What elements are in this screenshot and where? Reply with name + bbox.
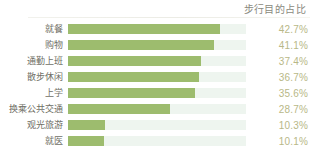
bar-value-label: 41.1% — [279, 37, 308, 53]
table-row: 观光旅游10.3% — [0, 117, 316, 133]
bar-track-wrapper: 37.4% — [68, 53, 316, 69]
bar-category-label: 上学 — [0, 89, 68, 98]
bar-track-wrapper: 35.6% — [68, 85, 316, 101]
table-row: 上学35.6% — [0, 85, 316, 101]
chart-header: 步行目的占比 — [0, 0, 316, 17]
bar-fill — [68, 40, 214, 50]
table-row: 通勤上班37.4% — [0, 53, 316, 69]
bar-category-label: 散步休闲 — [0, 73, 68, 82]
bar-track-wrapper: 41.1% — [68, 37, 316, 53]
walking-purpose-chart-panel: 步行目的占比 就餐42.7%购物41.1%通勤上班37.4%散步休闲36.7%上… — [0, 0, 316, 160]
bar-track-wrapper: 36.7% — [68, 69, 316, 85]
table-row: 购物41.1% — [0, 37, 316, 53]
bar-value-label: 42.7% — [279, 21, 308, 37]
bar-value-label: 10.1% — [279, 133, 308, 149]
bar-fill — [68, 120, 105, 130]
bar-fill — [68, 72, 199, 82]
bar-value-label: 37.4% — [279, 53, 308, 69]
table-row: 就医10.1% — [0, 133, 316, 149]
bar-fill — [68, 56, 201, 66]
table-row: 散步休闲36.7% — [0, 69, 316, 85]
bar-track-wrapper: 10.1% — [68, 133, 316, 149]
bar-value-label: 10.3% — [279, 117, 308, 133]
bar-track-wrapper: 10.3% — [68, 117, 316, 133]
bar-category-label: 观光旅游 — [0, 121, 68, 130]
bar-track-wrapper: 28.7% — [68, 101, 316, 117]
bar-category-label: 通勤上班 — [0, 57, 68, 66]
bar-fill — [68, 24, 220, 34]
bar-category-label: 就餐 — [0, 25, 68, 34]
bar-fill — [68, 136, 104, 146]
bar-fill — [68, 104, 170, 114]
bar-value-label: 35.6% — [279, 85, 308, 101]
bar-chart-rows: 就餐42.7%购物41.1%通勤上班37.4%散步休闲36.7%上学35.6%换… — [0, 21, 316, 157]
table-row: 换乘公共交通28.7% — [0, 101, 316, 117]
bar-track-wrapper: 42.7% — [68, 21, 316, 37]
bar-category-label: 购物 — [0, 41, 68, 50]
page-title: 步行目的占比 — [244, 1, 306, 16]
bar-value-label: 36.7% — [279, 69, 308, 85]
bar-fill — [68, 88, 195, 98]
bar-category-label: 换乘公共交通 — [0, 105, 68, 114]
bar-value-label: 28.7% — [279, 101, 308, 117]
bar-category-label: 就医 — [0, 137, 68, 146]
header-divider — [28, 17, 310, 18]
table-row: 就餐42.7% — [0, 21, 316, 37]
